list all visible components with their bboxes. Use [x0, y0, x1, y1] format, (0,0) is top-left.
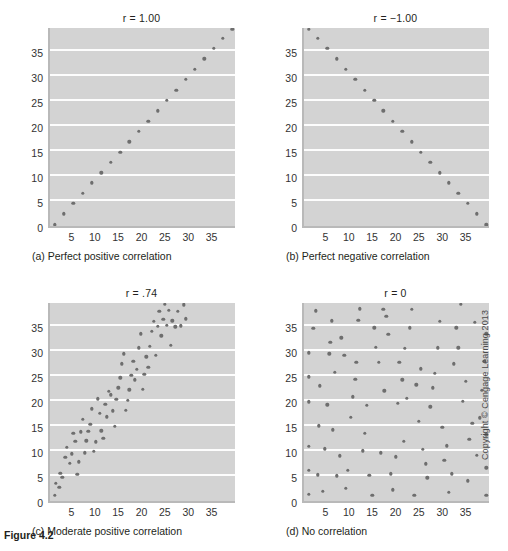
gridline	[304, 49, 489, 51]
data-point	[307, 468, 310, 471]
panel-a-x-axis: 5101520253035	[48, 232, 235, 248]
data-point	[307, 351, 310, 354]
data-point	[145, 355, 148, 358]
data-point	[354, 377, 357, 380]
data-point	[156, 109, 159, 112]
x-tick-label: 35	[460, 232, 472, 243]
y-tick-label: 30	[285, 73, 297, 84]
x-tick-label: 25	[413, 507, 425, 518]
data-point	[466, 479, 469, 482]
data-point	[317, 424, 320, 427]
x-tick-label: 20	[136, 232, 148, 243]
x-tick-label: 15	[366, 507, 378, 518]
data-point	[152, 319, 155, 322]
data-point	[307, 444, 310, 447]
scatter-panel-d: r = 0 05101520253035 5101520253035 (d) N…	[254, 281, 508, 549]
panel-d-y-axis: 05101520253035	[254, 303, 297, 503]
data-point	[328, 352, 331, 355]
data-point	[103, 402, 106, 405]
data-point	[398, 360, 401, 363]
gridline	[304, 474, 489, 476]
data-point	[128, 140, 131, 143]
data-point	[419, 150, 422, 153]
data-point	[53, 493, 56, 496]
x-tick-label: 35	[206, 232, 218, 243]
y-tick-label: 35	[31, 323, 43, 334]
x-tick-label: 15	[112, 232, 124, 243]
data-point	[137, 129, 140, 132]
data-point	[485, 493, 488, 496]
panel-c-plot-area	[48, 303, 235, 503]
panel-d-title: r = 0	[302, 287, 489, 299]
data-point	[165, 98, 168, 101]
y-tick-label: 10	[31, 173, 43, 184]
y-tick-label: 10	[31, 448, 43, 459]
data-point	[358, 307, 361, 310]
data-point	[413, 493, 416, 496]
data-point	[126, 398, 129, 401]
data-point	[445, 444, 448, 447]
data-point	[92, 449, 95, 452]
data-point	[79, 430, 82, 433]
data-point	[485, 223, 488, 226]
data-point	[328, 340, 331, 343]
data-point	[117, 386, 120, 389]
data-point	[53, 223, 56, 226]
y-tick-label: 25	[31, 373, 43, 384]
data-point	[150, 329, 153, 332]
data-point	[382, 109, 385, 112]
panel-a-y-axis: 05101520253035	[0, 28, 43, 228]
x-tick-label: 5	[68, 232, 74, 243]
data-point	[72, 201, 75, 204]
data-point	[165, 323, 168, 326]
data-point	[338, 454, 341, 457]
data-point	[81, 191, 84, 194]
figure-grid: r = 1.00 05101520253035 5101520253035 (a…	[0, 0, 508, 520]
y-tick-label: 10	[285, 173, 297, 184]
data-point	[141, 387, 144, 390]
data-point	[154, 353, 157, 356]
data-point	[396, 401, 399, 404]
data-point	[193, 67, 196, 70]
x-tick-label: 30	[182, 232, 194, 243]
data-point	[158, 309, 161, 312]
data-point	[90, 181, 93, 184]
data-point	[65, 445, 68, 448]
y-tick-label: 0	[37, 498, 43, 509]
x-tick-label: 20	[390, 232, 402, 243]
data-point	[475, 453, 478, 456]
data-point	[426, 476, 429, 479]
scatter-panel-b: r = −1.00 05101520253035 5101520253035 (…	[254, 6, 508, 274]
data-point	[62, 212, 65, 215]
data-point	[70, 452, 73, 455]
data-point	[346, 468, 349, 471]
data-point	[83, 451, 86, 454]
y-tick-label: 10	[285, 448, 297, 459]
data-point	[331, 428, 334, 431]
data-point	[391, 488, 394, 491]
data-point	[410, 307, 413, 310]
data-point	[184, 317, 187, 320]
x-tick-label: 20	[390, 507, 402, 518]
data-point	[314, 309, 317, 312]
data-point	[307, 400, 310, 403]
panel-c-y-axis: 05101520253035	[0, 303, 43, 503]
y-tick-label: 5	[37, 198, 43, 209]
data-point	[174, 325, 177, 328]
panel-c-caption: (c) Moderate positive correlation	[32, 525, 182, 537]
data-point	[316, 36, 319, 39]
y-tick-label: 20	[31, 123, 43, 134]
data-point	[419, 367, 422, 370]
data-point	[400, 129, 403, 132]
panel-b-title: r = −1.00	[302, 12, 489, 24]
y-tick-label: 30	[31, 73, 43, 84]
panel-a-plot-area	[48, 28, 235, 228]
panel-c-x-axis: 5101520253035	[48, 507, 235, 523]
x-tick-label: 30	[182, 507, 194, 518]
data-point	[169, 343, 172, 346]
x-tick-label: 10	[343, 232, 355, 243]
data-point	[468, 437, 471, 440]
x-tick-label: 10	[89, 507, 101, 518]
data-point	[459, 303, 462, 306]
gridline	[304, 449, 489, 451]
